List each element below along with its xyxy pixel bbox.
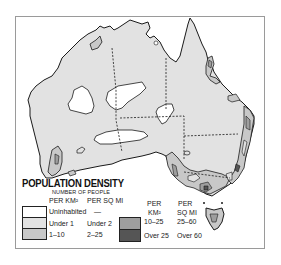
legend-label-10-25: 10–25	[144, 218, 163, 225]
legend-col-per-a: PER	[147, 200, 161, 207]
legend-col-per-b: PER	[178, 200, 192, 207]
legend-title: POPULATION DENSITY	[22, 177, 124, 190]
legend-label-25-60: 25–60	[177, 218, 196, 225]
legend-col-sqmi-b: SQ MI	[177, 209, 197, 216]
legend-label-over60: Over 60	[177, 232, 202, 239]
legend-label-uninhabited: Uninhabited	[49, 208, 86, 215]
legend-label-uninhabited-sqmi: —	[94, 208, 101, 215]
legend-label-under1: Under 1	[49, 220, 74, 227]
legend-swatch-over25	[119, 229, 141, 242]
legend-col-sqmi: PER SQ MI	[87, 197, 123, 204]
legend-col-km2: PER KM²	[49, 197, 78, 204]
legend-label-under2: Under 2	[87, 220, 112, 227]
legend-col-km2-b: KM²	[148, 209, 161, 216]
density-over-25-area	[204, 186, 208, 190]
legend-subtitle: NUMBER OF PEOPLE	[52, 189, 110, 195]
legend-label-over25: Over 25	[144, 232, 169, 239]
legend-label-1-10: 1–10	[49, 231, 65, 238]
legend-label-2-25: 2–25	[87, 231, 103, 238]
legend-swatch-1-10	[22, 228, 47, 240]
mainland-australia	[28, 18, 254, 196]
density-over-25-area	[55, 154, 59, 164]
